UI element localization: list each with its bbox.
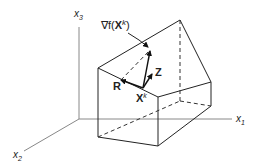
z-label: Z [155, 66, 162, 78]
x3-axis-label: x3 [73, 8, 83, 21]
coordinate-axes [24, 27, 232, 151]
x1-axis-label: x1 [235, 113, 245, 126]
x2-axis-label: x2 [12, 149, 22, 162]
polyhedron-diagram: x3 x1 x2 ∇f(Xk) R Z Xk [0, 0, 257, 167]
r-vector [121, 80, 143, 88]
gradient-label: ∇f(Xk) [100, 18, 130, 31]
direction-vectors [121, 33, 152, 88]
r-label: R [113, 80, 121, 92]
x2-axis [24, 119, 79, 151]
xk-point-label: Xk [136, 92, 147, 104]
